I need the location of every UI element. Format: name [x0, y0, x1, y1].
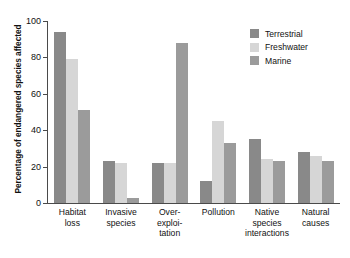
legend-swatch-icon	[250, 56, 259, 65]
category-label-line: Habitat	[48, 207, 97, 218]
bar	[152, 163, 164, 203]
legend-item-label: Freshwater	[265, 42, 308, 52]
category-label-line: exploi-	[145, 218, 194, 229]
y-axis-tick-mark	[43, 167, 47, 168]
y-axis-tick-mark	[43, 130, 47, 131]
x-axis-line	[47, 203, 340, 204]
category-label-line: Pollution	[194, 207, 243, 218]
y-axis-tick-mark	[43, 203, 47, 204]
category-label-line: species	[243, 218, 292, 229]
bar	[310, 156, 322, 203]
bar	[322, 161, 334, 203]
y-axis-tick-label: 40	[31, 125, 41, 135]
bar	[176, 43, 188, 203]
bar	[66, 59, 78, 203]
legend-swatch-icon	[250, 29, 259, 38]
x-axis-category-label: Pollution	[194, 207, 243, 218]
bar	[78, 110, 90, 203]
x-axis-category-label: Invasivespecies	[97, 207, 146, 228]
x-axis-category-label: Over-exploi-tation	[145, 207, 194, 239]
y-axis-line	[47, 21, 48, 204]
legend-item: Freshwater	[250, 41, 346, 55]
y-axis-tick-label: 20	[31, 162, 41, 172]
bar	[54, 32, 66, 203]
bar-group	[200, 21, 236, 203]
category-label-line: species	[97, 218, 146, 229]
bar	[212, 121, 224, 203]
bar	[164, 163, 176, 203]
legend: TerrestrialFreshwaterMarine	[250, 27, 346, 68]
y-axis-tick-mark	[43, 21, 47, 22]
bar	[249, 139, 261, 203]
category-label-line: loss	[48, 218, 97, 229]
legend-item: Terrestrial	[250, 27, 346, 41]
category-label-line: Natural	[291, 207, 340, 218]
bar	[115, 163, 127, 203]
legend-item-label: Terrestrial	[265, 29, 303, 39]
category-label-line: Invasive	[97, 207, 146, 218]
bar	[200, 181, 212, 203]
category-label-line: interactions	[243, 228, 292, 239]
bar	[261, 159, 273, 203]
bar-group	[152, 21, 188, 203]
category-label-line: causes	[291, 218, 340, 229]
bar-group	[54, 21, 90, 203]
x-axis-category-label: Nativespeciesinteractions	[243, 207, 292, 239]
bar	[103, 161, 115, 203]
legend-item: Marine	[250, 54, 346, 68]
category-label-line: tation	[145, 228, 194, 239]
y-axis-tick-mark	[43, 94, 47, 95]
legend-item-label: Marine	[265, 56, 291, 66]
y-axis-tick-mark	[43, 57, 47, 58]
y-axis-tick-label: 100	[26, 16, 41, 26]
bar-chart: Percentage of endangered species affecte…	[0, 0, 350, 258]
bar	[298, 152, 310, 203]
y-axis-tick-label: 60	[31, 89, 41, 99]
bar	[273, 161, 285, 203]
y-axis-title: Percentage of endangered species affecte…	[13, 9, 23, 209]
category-label-line: Native	[243, 207, 292, 218]
bar-group	[103, 21, 139, 203]
category-label-line: Over-	[145, 207, 194, 218]
y-axis-tick-label: 80	[31, 52, 41, 62]
x-axis-category-label: Habitatloss	[48, 207, 97, 228]
legend-swatch-icon	[250, 43, 259, 52]
bar	[127, 198, 139, 203]
x-axis-category-label: Naturalcauses	[291, 207, 340, 228]
y-axis-tick-label: 0	[36, 198, 41, 208]
bar	[224, 143, 236, 203]
